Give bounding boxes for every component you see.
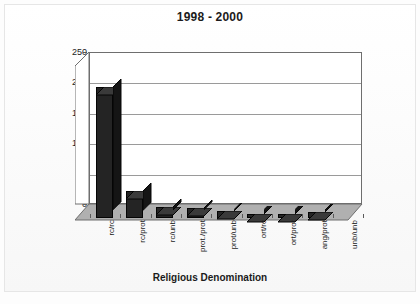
x-axis-category-label: ang/prot (321, 220, 329, 249)
x-axis-category-label: prot/unb (230, 220, 238, 249)
x-axis-category-label: ort/prot (290, 220, 298, 245)
bar-column (126, 183, 143, 218)
x-axis-categories: rc/rcrc/protrc/unbprot./protprot/unbort/… (75, 218, 375, 270)
bar-column (308, 204, 325, 218)
bar-front-face (96, 87, 113, 218)
bar-column (278, 206, 295, 218)
x-axis-category-label: prot./prot (199, 220, 207, 252)
x-axis-tick-mark (181, 214, 182, 218)
x-axis-tick-mark (211, 214, 212, 218)
x-axis-category-label: rc/prot (139, 220, 147, 243)
x-axis-tick-mark (272, 214, 273, 218)
x-axis-tick-mark (242, 214, 243, 218)
x-axis-tick-mark (333, 214, 334, 218)
x-axis-title: Religious Denomination (0, 272, 420, 283)
bar-column (247, 206, 264, 218)
x-axis-category-label: rc/unb (169, 220, 177, 242)
bar-column (217, 203, 234, 218)
chart-title: 1998 - 2000 (0, 10, 420, 24)
x-axis-tick-mark (151, 214, 152, 218)
x-axis-tick-mark (120, 214, 121, 218)
bar-column (187, 200, 204, 218)
x-axis-category-label: unb/unb (351, 220, 359, 249)
bar-series (75, 52, 362, 220)
bar-column (96, 79, 113, 218)
chart-page: 1998 - 2000 050100150200250 rc/rcrc/prot… (0, 0, 420, 304)
bar-side-face (143, 183, 151, 218)
bar-column (156, 199, 173, 218)
x-axis-category-label: rc/rc (108, 220, 116, 236)
x-axis-tick-mark (302, 214, 303, 218)
x-axis-tick-mark (90, 214, 91, 218)
bar-side-face (113, 79, 121, 218)
x-axis-tick-mark (363, 214, 364, 218)
x-axis-category-label: ort/rc (260, 220, 268, 238)
